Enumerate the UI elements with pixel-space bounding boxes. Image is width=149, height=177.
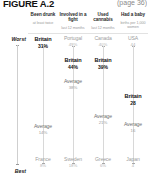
data-column-involved-in-a-fight: Portugal 49% Britain 44% Average 38% Swe…	[58, 36, 88, 174]
data-point-name: Sweden	[58, 157, 88, 163]
data-point-value: 28	[118, 101, 148, 107]
column-spine	[43, 46, 44, 164]
column-heading-title: Involved in a fight	[58, 12, 88, 22]
axis-label-best: Best	[0, 168, 26, 174]
column-heading-title: Had a baby	[118, 12, 148, 17]
data-point-name: Portugal	[58, 36, 88, 42]
axis-label-worst: Worst	[0, 36, 26, 42]
data-point-japan: Japan 4	[118, 157, 148, 169]
data-column-been-drunk: Britain 31% Average 14% France 8%	[28, 36, 58, 174]
data-point-value: 21%	[88, 121, 118, 126]
data-point-average: Average 38%	[58, 79, 88, 91]
data-point-britain: Britain 28	[118, 93, 148, 106]
data-point-value: 6%	[88, 164, 118, 169]
figure-header: FIGURE A.2 (page 36)	[3, 0, 147, 10]
data-point-portugal: Portugal 49%	[58, 36, 88, 48]
data-point-name: Canada	[88, 36, 118, 42]
data-point-name: Britain	[28, 36, 58, 42]
data-point-greece: Greece 6%	[88, 157, 118, 169]
data-point-value: 4	[118, 164, 148, 169]
data-point-name: Britain	[88, 57, 118, 63]
column-heading-had-a-baby: Had a baby births per 1,000 women	[118, 12, 148, 30]
data-point-value: 40%	[88, 43, 118, 48]
data-point-usa: USA 44	[118, 36, 148, 48]
data-point-value: 49%	[58, 43, 88, 48]
column-heading-title: Been drunk	[28, 12, 58, 17]
column-heading-involved-in-a-fight: Involved in a fight last 12 months	[58, 12, 88, 30]
data-point-sweden: Sweden 18%	[58, 157, 88, 169]
axis-tick-bottom	[16, 164, 19, 165]
data-point-value: 16	[118, 129, 148, 134]
axis-line	[17, 45, 18, 165]
data-point-name: Greece	[88, 157, 118, 163]
data-point-name: Average	[28, 124, 58, 130]
heading-divider	[28, 33, 148, 34]
data-point-name: Britain	[118, 93, 148, 99]
column-heading-used-cannabis: Used cannabis last 12 months	[88, 12, 118, 30]
data-point-canada: Canada 40%	[88, 36, 118, 48]
data-column-used-cannabis: Canada 40% Britain 39% Average 21% Greec…	[88, 36, 118, 174]
data-point-name: Britain	[58, 57, 88, 63]
data-point-name: Average	[118, 122, 148, 128]
data-point-name: Japan	[118, 157, 148, 163]
figure-page-reference: (page 36)	[117, 0, 147, 6]
data-point-britain: Britain 44%	[58, 57, 88, 70]
data-point-value: 14%	[28, 131, 58, 136]
data-column-had-a-baby: USA 44 Britain 28 Average 16 Japan 4	[118, 36, 148, 174]
figure-title: FIGURE A.2	[3, 0, 54, 9]
data-point-value: 39%	[88, 65, 118, 71]
data-point-britain: Britain 31%	[28, 36, 58, 49]
column-headings: Been drunk at least twice Involved in a …	[28, 12, 149, 30]
rank-axis: Worst Best	[0, 36, 28, 174]
data-point-name: Average	[88, 114, 118, 120]
data-columns: Britain 31% Average 14% France 8% Portug…	[28, 36, 149, 174]
column-heading-title: Used cannabis	[88, 12, 118, 22]
data-point-average: Average 14%	[28, 124, 58, 136]
data-point-france: France 8%	[28, 157, 58, 169]
data-point-average: Average 16	[118, 122, 148, 134]
data-point-name: USA	[118, 36, 148, 42]
data-point-value: 18%	[58, 164, 88, 169]
column-heading-subtitle: last 12 months	[58, 26, 88, 30]
data-point-value: 31%	[28, 44, 58, 50]
data-point-average: Average 21%	[88, 114, 118, 126]
column-heading-subtitle: births per 1,000 women	[118, 21, 148, 29]
data-point-value: 8%	[28, 164, 58, 169]
data-point-value: 44%	[58, 65, 88, 71]
column-heading-subtitle: last 12 months	[88, 26, 118, 30]
data-point-name: France	[28, 157, 58, 163]
column-heading-subtitle: at least twice	[28, 21, 58, 25]
data-point-name: Average	[58, 79, 88, 85]
column-heading-been-drunk: Been drunk at least twice	[28, 12, 58, 30]
data-point-britain: Britain 39%	[88, 57, 118, 70]
data-point-value: 38%	[58, 86, 88, 91]
data-point-value: 44	[118, 43, 148, 48]
